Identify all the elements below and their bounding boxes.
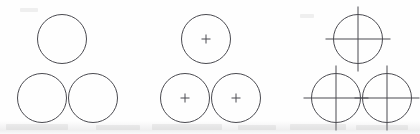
circle-outline-plain-bottom-left — [18, 74, 67, 123]
figure-canvas — [0, 0, 420, 134]
circle-unit-plain-top — [38, 15, 87, 64]
circle-outline-plain-bottom-right — [69, 74, 118, 123]
circle-unit-plus-bottom-left — [161, 74, 210, 123]
circle-unit-plain-bottom-right — [69, 74, 118, 123]
circle-unit-cross-top — [326, 7, 391, 72]
circle-unit-cross-bottom-right — [355, 66, 420, 131]
circle-center-mark-figure — [0, 0, 420, 134]
circle-unit-plus-top — [182, 15, 231, 64]
circle-unit-plus-bottom-right — [212, 74, 261, 123]
circle-unit-plain-bottom-left — [18, 74, 67, 123]
circle-outline-plain-top — [38, 15, 87, 64]
circle-group-small-plus — [161, 15, 261, 123]
circle-group-center-lines — [304, 7, 420, 131]
circle-group-plain — [18, 15, 118, 123]
